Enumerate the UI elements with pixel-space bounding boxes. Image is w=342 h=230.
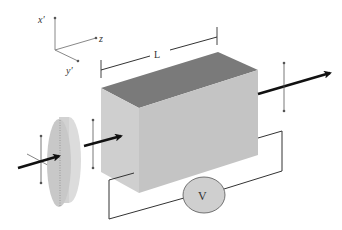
axis-label-z: z (98, 33, 103, 44)
polarizer-disk (47, 117, 81, 207)
diagram-canvas: x′ z y′ L (0, 0, 342, 230)
output-beam-arrow (258, 73, 330, 94)
coordinate-axes: x′ z y′ (37, 14, 103, 76)
axis-label-y: y′ (65, 65, 73, 76)
length-label: L (154, 49, 160, 60)
voltmeter-label: V (198, 189, 207, 203)
crystal-box (101, 52, 258, 193)
voltmeter: V (183, 177, 225, 213)
axis-label-x: x′ (37, 14, 45, 25)
